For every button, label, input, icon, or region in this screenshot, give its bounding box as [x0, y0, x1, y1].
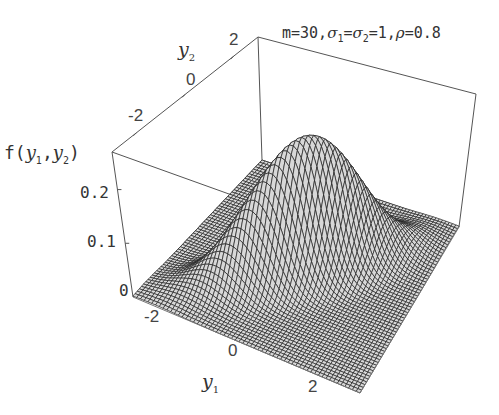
- y2-axis-label: y2: [178, 38, 195, 63]
- y2-tick-0: 0: [186, 70, 195, 90]
- y1-axis-label: y1: [202, 370, 219, 395]
- chart-title: m=30,σ1=σ2=1,ρ=0.8: [282, 24, 441, 44]
- z-tick-0.1: 0.1: [87, 232, 116, 251]
- y2-tick-neg2: -2: [128, 106, 143, 126]
- z-tick-0.2: 0.2: [80, 183, 109, 202]
- density-surface: [133, 135, 459, 393]
- z-axis-label: f(y1,y2): [4, 142, 80, 166]
- y1-tick-0: 0: [228, 341, 237, 361]
- y1-tick-neg2: -2: [144, 307, 159, 327]
- surface-plot: [0, 0, 499, 415]
- y1-tick-2: 2: [308, 377, 317, 397]
- z-tick-0: 0: [119, 281, 129, 300]
- y2-tick-2: 2: [229, 30, 238, 50]
